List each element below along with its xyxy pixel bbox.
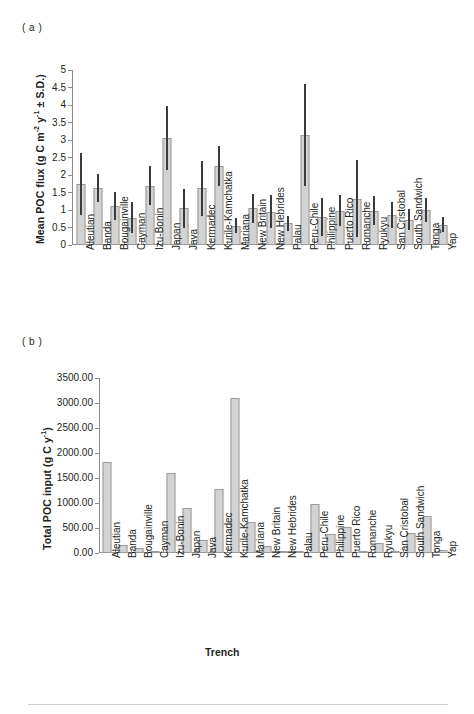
x-tick-label: Mariana [255, 522, 266, 558]
x-tick-label: Ryukyu [378, 217, 389, 250]
error-bar [218, 146, 220, 186]
x-tick-label: Philippine [335, 515, 346, 558]
error-bar [270, 195, 272, 228]
x-tick-label: South Sandwich [415, 486, 426, 558]
y-tick-label: 1.5 [52, 186, 66, 199]
x-tick-label: San Cristobal [399, 498, 410, 558]
error-bar [97, 174, 99, 202]
panel-a-tag: ( a ) [22, 22, 42, 33]
error-bar [339, 195, 341, 227]
x-tick-label: Japan [171, 223, 182, 250]
x-tick-label: Kermadec [223, 512, 234, 558]
panel-a-y-axis-title-part3: ± S.D.) [34, 74, 46, 110]
x-tick-label: Tonga [431, 531, 442, 558]
bar-slot [435, 378, 451, 553]
error-bar [80, 153, 82, 215]
x-tick-label: Kermadec [206, 204, 217, 250]
y-tick-mark [68, 192, 72, 193]
error-bar [425, 198, 427, 223]
x-tick-label: Bougainville [119, 196, 130, 250]
y-tick-mark [68, 105, 72, 106]
x-tick-label: Romanche [367, 510, 378, 558]
x-tick-label: Kurile-Kamchatka [223, 171, 234, 250]
figure-poc-flux-trenches: ( a ) Mean POC flux (g C m-2 y-1 ± S.D.)… [0, 0, 474, 714]
y-tick-label: 3.5 [52, 116, 66, 129]
bar-slot [176, 70, 193, 245]
y-tick-label: 1 [60, 203, 66, 216]
x-tick-label: Romanche [361, 202, 372, 250]
y-tick-mark [68, 210, 72, 211]
error-bar [131, 202, 133, 234]
y-tick-label: 2000.00 [57, 446, 93, 459]
x-tick-label: South Sandwich [413, 178, 424, 250]
y-tick-mark [95, 428, 99, 429]
error-bar [166, 106, 168, 170]
x-tick-label: Aleutian [111, 522, 122, 558]
panel-b-y-axis-title: Total POC input (g C y-1) [40, 427, 53, 550]
y-tick-label: 2 [60, 168, 66, 181]
y-tick-label: 2500.00 [57, 421, 93, 434]
x-tick-label: Izu-Bonin [154, 208, 165, 250]
y-tick-mark [95, 478, 99, 479]
y-tick-mark [95, 453, 99, 454]
x-tick-label: Cayman [136, 213, 147, 250]
y-tick-mark [68, 175, 72, 176]
error-bar [114, 192, 116, 220]
x-tick-label: Palau [292, 224, 303, 250]
error-bar [201, 161, 203, 216]
y-tick-mark [68, 122, 72, 123]
error-bar [252, 194, 254, 223]
x-tick-label: San Cristobal [396, 190, 407, 250]
panel-a-plot-area: 00.511.522.533.544.55 AleutianBandaBouga… [72, 70, 452, 245]
error-bar [408, 209, 410, 230]
y-tick-label: 0.00 [74, 546, 93, 559]
error-bar [235, 218, 237, 233]
panel-a-y-axis-title-sup1: -2 [33, 126, 40, 132]
x-tick-label: New Hebrides [287, 495, 298, 558]
x-tick-label: Mariana [240, 214, 251, 250]
y-tick-label: 4 [60, 98, 66, 111]
panel-a-y-axis-title-part1: Mean POC flux (g C m [34, 132, 46, 244]
panel-b-y-axis-title-part1: Total POC input (g C y [41, 437, 53, 550]
x-tick-label: Aleutian [85, 214, 96, 250]
y-tick-label: 5 [60, 63, 66, 76]
x-tick-label: Bougainville [143, 504, 154, 558]
x-tick-label: Peru-Chile [309, 203, 320, 250]
x-tick-label: Palau [303, 532, 314, 558]
y-tick-label: 1500.00 [57, 471, 93, 484]
y-tick-label: 2.5 [52, 151, 66, 164]
x-tick-mark [99, 549, 100, 553]
y-tick-label: 4.5 [52, 81, 66, 94]
x-tick-label: Banda [127, 529, 138, 558]
y-tick-label: 500.00 [62, 521, 93, 534]
x-tick-label: Yap [447, 541, 458, 558]
y-tick-mark [95, 378, 99, 379]
panel-b-y-axis-title-sup1: -1 [40, 431, 47, 437]
error-bar [304, 84, 306, 186]
x-tick-label: Java [207, 537, 218, 558]
panel-a-y-axis-title-part2: y [34, 117, 46, 126]
error-bar [356, 160, 358, 237]
error-bar [391, 202, 393, 228]
x-tick-label: Izu-Bonin [175, 516, 186, 558]
x-axis-title: Trench [205, 646, 239, 658]
y-tick-label: 0.5 [52, 221, 66, 234]
error-bar [149, 166, 151, 205]
panel-a-y-axis-title-sup2: -1 [33, 110, 40, 116]
error-bar [442, 217, 444, 232]
y-tick-mark [68, 140, 72, 141]
y-tick-mark [95, 503, 99, 504]
x-tick-mark [72, 241, 73, 245]
y-tick-mark [95, 528, 99, 529]
panel-b-tag: ( b ) [22, 336, 42, 347]
y-tick-label: 3 [60, 133, 66, 146]
bar-slot [435, 70, 452, 245]
footer-divider [28, 704, 448, 705]
x-tick-label: Cayman [159, 521, 170, 558]
x-tick-label: Tonga [430, 223, 441, 250]
panel-b-plot-area: 0.00500.001000.001500.002000.002500.0030… [99, 378, 451, 553]
y-tick-mark [95, 403, 99, 404]
x-tick-label: Java [188, 229, 199, 250]
error-bar [183, 189, 185, 228]
y-tick-label: 1000.00 [57, 496, 93, 509]
